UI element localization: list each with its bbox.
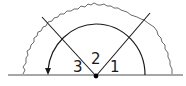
angle-label-1: 1 <box>110 58 120 76</box>
angle-diagram: 3 2 1 <box>0 0 186 86</box>
angle-label-2: 2 <box>91 50 101 68</box>
angle-label-3: 3 <box>73 58 83 76</box>
arrow-head-icon <box>45 68 51 75</box>
right-ray <box>96 13 150 76</box>
left-ray <box>42 17 96 76</box>
vertex-point <box>94 74 99 79</box>
